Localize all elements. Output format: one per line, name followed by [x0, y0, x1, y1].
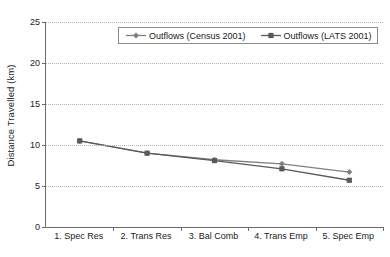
x-axis-tick-label: 3. Bal Comb	[189, 231, 239, 241]
data-point-marker-diamond	[346, 169, 352, 175]
y-axis-tick-label: 25	[16, 17, 40, 27]
data-point-marker-square	[347, 178, 352, 183]
data-point-marker-diamond	[133, 33, 139, 39]
y-axis-tick-label: 0	[16, 222, 40, 232]
y-axis-tick-mark	[42, 63, 46, 64]
legend-marker-icon	[260, 31, 282, 40]
plot-area	[45, 22, 383, 228]
y-axis-tick-mark	[42, 22, 46, 23]
data-point-marker-square	[268, 33, 273, 38]
y-axis-tick-mark	[42, 145, 46, 146]
y-axis-tick-mark	[42, 186, 46, 187]
gridline	[46, 22, 383, 23]
x-axis-tick-label: 4. Trans Emp	[254, 231, 308, 241]
legend-label: Outflows (LATS 2001)	[284, 31, 372, 41]
legend-entry: Outflows (LATS 2001)	[260, 31, 372, 41]
y-axis-tick-labels: 0510152025	[14, 0, 40, 257]
legend-marker-icon	[125, 31, 147, 40]
x-axis-tick-labels: 1. Spec Res2. Trans Res3. Bal Comb4. Tra…	[45, 231, 382, 251]
x-axis-tick-label: 1. Spec Res	[54, 231, 103, 241]
x-axis-tick-label: 5. Spec Emp	[323, 231, 375, 241]
x-axis-tick-mark	[383, 227, 384, 231]
series-layer	[46, 22, 383, 227]
legend-entry: Outflows (Census 2001)	[125, 31, 246, 41]
line-chart: Distance Travelled (km) 0510152025 1. Sp…	[0, 0, 390, 257]
x-axis-tick-label: 2. Trans Res	[121, 231, 172, 241]
y-axis-tick-label: 5	[16, 181, 40, 191]
gridline	[46, 145, 383, 146]
y-axis-tick-label: 15	[16, 99, 40, 109]
data-point-marker-square	[279, 166, 284, 171]
gridline	[46, 104, 383, 105]
chart-legend: Outflows (Census 2001)Outflows (LATS 200…	[118, 27, 378, 44]
gridline	[46, 63, 383, 64]
series-1	[77, 138, 353, 175]
data-point-marker-square	[145, 151, 150, 156]
y-axis-tick-mark	[42, 227, 46, 228]
y-axis-tick-label: 20	[16, 58, 40, 68]
y-axis-tick-label: 10	[16, 140, 40, 150]
legend-label: Outflows (Census 2001)	[149, 31, 246, 41]
data-point-marker-square	[212, 158, 217, 163]
y-axis-tick-mark	[42, 104, 46, 105]
gridline	[46, 186, 383, 187]
data-point-marker-square	[77, 138, 82, 143]
data-point-marker-diamond	[279, 161, 285, 167]
